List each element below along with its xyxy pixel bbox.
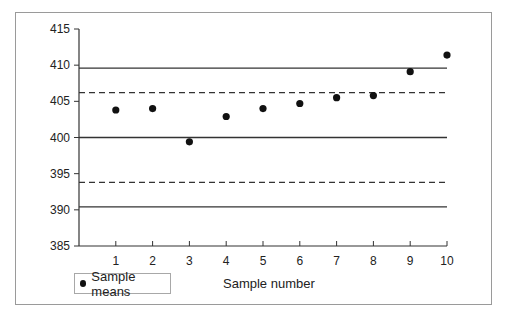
x-tick-label: 3 [186, 254, 193, 268]
sample-mean-point [149, 105, 156, 112]
x-tick-label: 10 [440, 254, 454, 268]
reference-lines [79, 68, 447, 207]
x-tick-label: 8 [370, 254, 377, 268]
y-tick-label: 415 [50, 22, 70, 36]
y-tick-label: 395 [50, 167, 70, 181]
x-tick-label: 7 [333, 254, 340, 268]
y-tick-label: 405 [50, 94, 70, 108]
legend: Sample means [74, 273, 171, 294]
sample-mean-point [223, 113, 230, 120]
axes: 38539039540040541041512345678910 [50, 22, 454, 268]
legend-label: Sample means [91, 269, 170, 299]
sample-mean-point [333, 94, 340, 101]
sample-mean-point [443, 51, 450, 58]
x-tick-label: 1 [112, 254, 119, 268]
sample-mean-point [186, 138, 193, 145]
x-tick-label: 6 [296, 254, 303, 268]
sample-mean-point [370, 92, 377, 99]
y-tick-label: 400 [50, 131, 70, 145]
sample-mean-point [112, 106, 119, 113]
x-axis-title: Sample number [223, 276, 315, 291]
sample-mean-point [296, 100, 303, 107]
control-chart-plot: 38539039540040541041512345678910 [0, 0, 505, 320]
sample-mean-points [112, 51, 450, 145]
y-tick-label: 410 [50, 58, 70, 72]
x-tick-label: 4 [223, 254, 230, 268]
sample-mean-point [259, 105, 266, 112]
y-tick-label: 385 [50, 239, 70, 253]
x-tick-label: 5 [260, 254, 267, 268]
sample-mean-point [407, 68, 414, 75]
y-tick-label: 390 [50, 203, 70, 217]
x-tick-label: 9 [407, 254, 414, 268]
legend-marker-icon [80, 280, 86, 287]
x-tick-label: 2 [149, 254, 156, 268]
